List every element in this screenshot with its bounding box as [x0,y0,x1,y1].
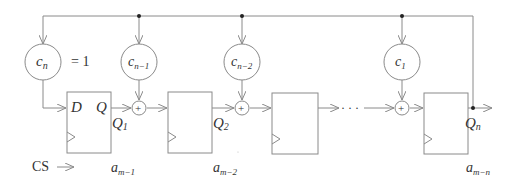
seq-am-n: am−n [466,160,491,177]
coefficient-cn-2: cn−2 [224,44,260,80]
lfsr-diagram: cn = 1 cn−1 cn−2 c1 D Q · · · [0,0,519,183]
output-q2: Q2 [213,115,229,132]
adder-n: + [395,101,409,115]
coefficient-cn: cn = 1 [25,44,89,80]
flip-flop-1: D Q [67,92,111,153]
clock-label: CS [32,159,49,174]
seq-am-1: am−1 [111,160,135,177]
coefficient-c1: c1 [384,44,420,80]
output-qn: Qn [465,115,481,132]
svg-text:+: + [135,102,141,114]
adder-2: + [235,101,249,115]
svg-text:+: + [398,102,404,114]
flip-flop-n [424,93,468,154]
svg-text:D: D [70,99,82,115]
junction-dot [240,14,244,18]
seq-am-2: am−2 [213,160,238,177]
ellipsis: · · · [341,101,359,115]
adder-1: + [132,101,146,115]
svg-text:+: + [238,102,244,114]
coefficient-cn-1: cn−1 [121,44,157,80]
junction-dot [400,14,404,18]
svg-text:= 1: = 1 [71,54,89,69]
junction-dot [137,14,141,18]
flip-flop-3 [272,93,318,154]
output-junction-dot [471,106,475,110]
svg-text:Q: Q [96,99,107,115]
output-q1: Q1 [112,115,128,132]
flip-flop-2 [168,92,212,153]
